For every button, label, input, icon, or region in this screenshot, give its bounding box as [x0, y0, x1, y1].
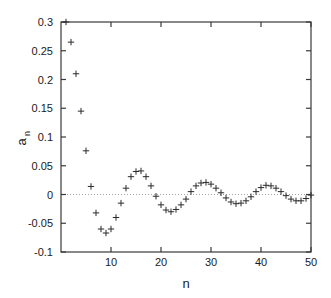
x-tick-label: 40 — [255, 256, 267, 268]
y-tick-label: -0.05 — [28, 217, 53, 229]
y-axis-label-base: a — [14, 138, 29, 146]
y-tick-label: 0.15 — [32, 102, 53, 114]
y-tick-label: 0 — [47, 189, 53, 201]
y-tick-label: 0.05 — [32, 160, 53, 172]
y-tick-label: 0.2 — [38, 74, 53, 86]
x-axis-label: n — [182, 276, 189, 291]
y-axis-label-subscript: n — [22, 131, 32, 136]
x-tick-label: 20 — [155, 256, 167, 268]
y-tick-label: 0.1 — [38, 131, 53, 143]
scatter-chart: -0.1-0.0500.050.10.150.20.250.3 10203040… — [0, 0, 331, 298]
x-tick-label: 30 — [205, 256, 217, 268]
figure-container: -0.1-0.0500.050.10.150.20.250.3 10203040… — [0, 0, 331, 298]
y-tick-label: 0.3 — [38, 16, 53, 28]
y-tick-label: 0.25 — [32, 45, 53, 57]
y-tick-label: -0.1 — [34, 246, 53, 258]
x-tick-label: 50 — [305, 256, 317, 268]
x-tick-label: 10 — [105, 256, 117, 268]
